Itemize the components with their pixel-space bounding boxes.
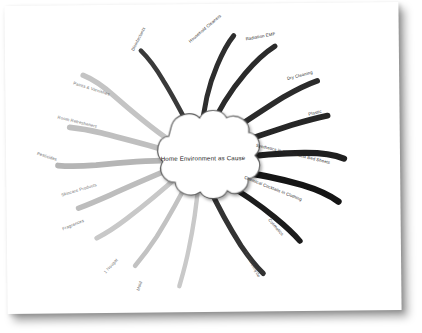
cloud-shape [157, 110, 260, 199]
center-cloud-node[interactable] [157, 110, 260, 199]
branch-path-mold [178, 184, 199, 286]
mindmap-canvas [4, 2, 401, 314]
branch-path-pesticides [58, 160, 170, 166]
screenshot-root: Home Environment as Cause Disinfectants … [0, 0, 422, 333]
mindmap-paper-card: Home Environment as Cause Disinfectants … [4, 2, 401, 314]
